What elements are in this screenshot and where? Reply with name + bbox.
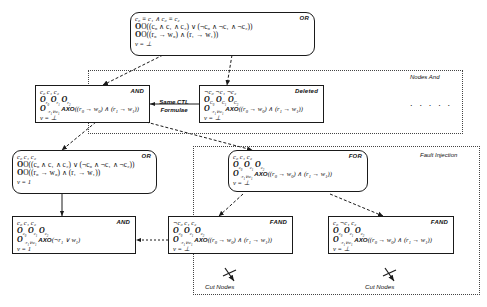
node-line: v = ⊥ bbox=[40, 114, 145, 122]
node-line: v = 1 bbox=[17, 178, 152, 186]
node-kind-badge-or-mid-left: OR bbox=[142, 153, 151, 159]
node-line: O¬r1∨w1 AXO((r0 → w0) ∧ (r1 → w1)) bbox=[40, 105, 145, 114]
node-line: Or0 Or1 Or2 bbox=[40, 96, 145, 105]
node-line: Oc0 Oc1 Oc2 bbox=[17, 227, 131, 236]
node-line: OO((r₀ → w₀) ∧ (r₁ → w₁)) bbox=[135, 31, 310, 40]
node-fand-right[interactable]: FAND c₀ ¬c₁ c₂ Oc0 Oc1 Oc2 O¬r1∨w1 AXO((… bbox=[328, 216, 454, 254]
node-and-top-left[interactable]: AND c₀ c₁ c₂ Or0 Or1 Or2 O¬r1∨w1 AXO((r0… bbox=[35, 85, 150, 123]
node-line: O¬r1∨w1 AXO((r0 → w0) ∧ (r1 → w1)) bbox=[333, 236, 449, 245]
nodes-and-group-label: Nodes And bbox=[410, 74, 439, 80]
node-line: Oc0 Oc1 Oc2 bbox=[233, 161, 363, 170]
node-line: v = ⊥ bbox=[135, 40, 310, 48]
node-line: OC0 OC1 OC2 bbox=[204, 96, 319, 105]
diagram-canvas: Nodes And . . . . . Fault Injection OR c… bbox=[0, 0, 487, 307]
edge-label-line-1: Same CTL bbox=[150, 99, 198, 107]
same-ctl-formulae-label: Same CTL Formulae bbox=[150, 99, 198, 114]
cut-nodes-label-left: Cut Nodes bbox=[205, 283, 234, 290]
node-line: O¬r1∨w1 AXO((r0 → w0) ∧ (r1 → w1)) bbox=[173, 236, 288, 245]
cut-nodes-label-right: Cut Nodes bbox=[365, 283, 394, 290]
node-and-bottom-left[interactable]: AND c₀ c₁ c₂ Oc0 Oc1 Oc2 O¬r1∨w1 AXO(¬r1… bbox=[12, 216, 136, 254]
node-deleted[interactable]: Deleted ¬c₀ ¬c₁ ¬c₂ OC0 OC1 OC2 O¬r1∨w1 … bbox=[199, 85, 324, 123]
node-line: Oc0 Oc1 Oc2 bbox=[333, 227, 449, 236]
node-line: O¬r1∨w1 AXO((r0 → w0) ∧ (r1 → w1)) bbox=[233, 170, 363, 179]
node-kind-badge-fand-right: FAND bbox=[431, 219, 448, 225]
node-line: Oc0 Oc1 Oc2 bbox=[173, 227, 288, 236]
node-kind-badge-deleted: Deleted bbox=[295, 88, 318, 94]
node-kind-badge-for: FOR bbox=[349, 153, 362, 159]
node-for[interactable]: FOR c₀ c₁ c₂ Oc0 Oc1 Oc2 O¬r1∨w1 AXO((r0… bbox=[228, 150, 368, 192]
node-kind-badge-root-or: OR bbox=[300, 15, 309, 21]
node-line: OO((r₀ → w₀) ∧ (r₁ → w₁)) bbox=[17, 169, 152, 178]
node-root-or[interactable]: OR c₀ ≡ c₁ ∧ c₀ ≡ c₂ OO((c₀ ∧ c₁ ∧ c₂) ∨… bbox=[130, 12, 315, 56]
nodes-and-ellipsis: . . . . . bbox=[410, 98, 452, 108]
node-line: O¬r1∨w1 AXO(¬r1 ∨ w1) bbox=[17, 236, 131, 245]
node-or-mid-left[interactable]: OR c₀ c₁ c₂ OO((c₀ ∧ c₁ ∧ c₂) ∨ (¬c₀ ∧ ¬… bbox=[12, 150, 157, 194]
fault-injection-group-label: Fault Injection bbox=[420, 152, 457, 158]
node-kind-badge-and-bottom-left: AND bbox=[116, 219, 130, 225]
node-line: c₀ c₁ c₂ bbox=[17, 219, 131, 227]
node-line: O¬r1∨w1 AXO((r0 → w0) ∧ (r1 → w1)) bbox=[204, 105, 319, 114]
node-kind-badge-and-top-left: AND bbox=[130, 88, 144, 94]
node-line: c₀ c₁ c₂ bbox=[233, 153, 363, 161]
edge-label-line-2: Formulae bbox=[150, 107, 198, 115]
node-fand-left[interactable]: FAND ¬c₀ c₁ c₂ Oc0 Oc1 Oc2 O¬r1∨w1 AXO((… bbox=[168, 216, 293, 254]
node-kind-badge-fand-left: FAND bbox=[270, 219, 287, 225]
